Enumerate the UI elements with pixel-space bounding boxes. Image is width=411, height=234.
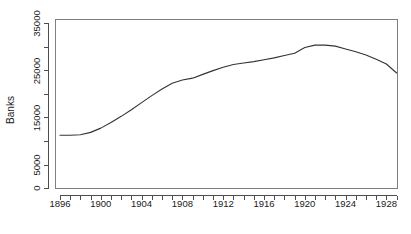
banks-series-line <box>60 45 397 135</box>
y-axis-ticks <box>44 24 49 189</box>
banks-line-chart: 0 5000 15000 25000 35000 Banks 1896 1900… <box>0 0 411 234</box>
ytick-label-25000: 25000 <box>31 58 42 84</box>
xtick-label-1924: 1924 <box>335 198 356 209</box>
chart-container: 0 5000 15000 25000 35000 Banks 1896 1900… <box>0 0 411 234</box>
ytick-label-5000: 5000 <box>31 154 42 175</box>
plot-frame <box>56 20 398 189</box>
xtick-label-1916: 1916 <box>253 198 274 209</box>
ytick-label-15000: 15000 <box>31 105 42 131</box>
xtick-label-1928: 1928 <box>376 198 397 209</box>
xtick-label-1912: 1912 <box>213 198 234 209</box>
xtick-label-1904: 1904 <box>131 198 152 209</box>
xtick-label-1908: 1908 <box>172 198 193 209</box>
ytick-label-0: 0 <box>31 185 42 190</box>
xtick-label-1900: 1900 <box>90 198 111 209</box>
ytick-label-35000: 35000 <box>31 10 42 36</box>
xtick-label-1896: 1896 <box>49 198 70 209</box>
y-axis-title: Banks <box>5 96 16 124</box>
xtick-label-1920: 1920 <box>294 198 315 209</box>
